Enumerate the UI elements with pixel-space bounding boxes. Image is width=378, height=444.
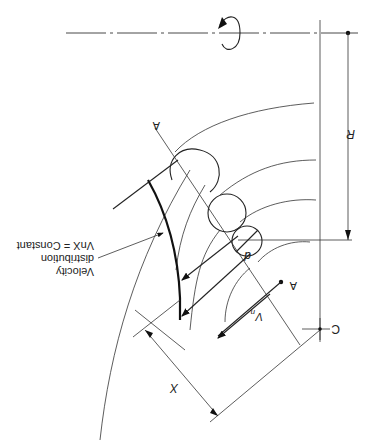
annotation-leader <box>98 233 163 258</box>
velocity-distribution-curve <box>113 160 185 350</box>
axis-of-rotation <box>66 31 358 35</box>
dimension-x: X <box>133 300 320 422</box>
label-r: R <box>346 127 355 141</box>
label-c: C <box>331 322 340 336</box>
dimension-r: R <box>238 33 355 240</box>
svg-text:n: n <box>250 308 255 317</box>
diagram-canvas: R d A A V <box>0 0 378 444</box>
svg-text:distribution: distribution <box>41 253 94 265</box>
diameter-marker: d <box>236 230 258 263</box>
label-vn: V n <box>250 308 263 323</box>
svg-text:VnX = Constant: VnX = Constant <box>17 240 94 252</box>
label-a-top: A <box>152 120 160 132</box>
label-a-bottom: A <box>289 280 297 292</box>
svg-text:Velocity: Velocity <box>56 266 94 278</box>
velocity-annotation: Velocity distribution VnX = Constant <box>17 240 94 278</box>
label-x: X <box>169 381 179 395</box>
center-mark-c: C <box>302 318 340 342</box>
